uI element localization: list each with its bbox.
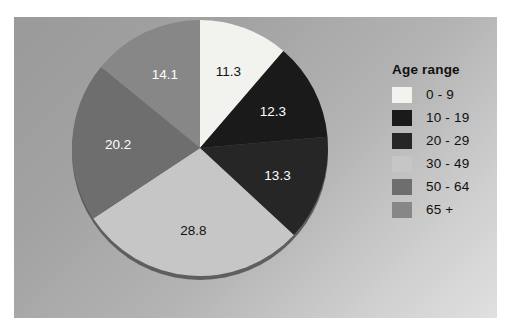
chart-panel: 11.312.313.328.820.214.1 Age range 0 - 9… — [14, 17, 497, 318]
pie-slice-value-label: 28.8 — [180, 223, 206, 238]
legend-swatch — [392, 87, 412, 103]
legend-swatch — [392, 202, 412, 218]
legend-item-label: 30 - 49 — [426, 156, 469, 171]
pie-slice-value-label: 20.2 — [105, 137, 131, 152]
legend-item[interactable]: 0 - 9 — [380, 84, 492, 105]
legend-items: 0 - 910 - 1920 - 2930 - 4950 - 6465 + — [380, 84, 492, 220]
pie-slice-value-label: 13.3 — [264, 168, 290, 183]
legend-swatch — [392, 179, 412, 195]
legend: Age range 0 - 910 - 1920 - 2930 - 4950 -… — [380, 62, 492, 222]
legend-item[interactable]: 20 - 29 — [380, 130, 492, 151]
legend-item[interactable]: 50 - 64 — [380, 176, 492, 197]
legend-swatch — [392, 133, 412, 149]
legend-swatch — [392, 110, 412, 126]
legend-item[interactable]: 65 + — [380, 199, 492, 220]
legend-title: Age range — [392, 62, 492, 77]
legend-item-label: 10 - 19 — [426, 110, 469, 125]
legend-item-label: 20 - 29 — [426, 133, 469, 148]
legend-swatch — [392, 156, 412, 172]
pie-slice-value-label: 11.3 — [216, 64, 241, 79]
legend-item[interactable]: 10 - 19 — [380, 107, 492, 128]
pie-chart-figure: 11.312.313.328.820.214.1 Age range 0 - 9… — [0, 0, 511, 331]
legend-item-label: 0 - 9 — [426, 87, 454, 102]
pie-slice-value-label: 12.3 — [260, 104, 286, 119]
legend-item-label: 65 + — [426, 202, 453, 217]
pie-slice-value-label: 14.1 — [152, 67, 178, 82]
legend-item-label: 50 - 64 — [426, 179, 469, 194]
legend-item[interactable]: 30 - 49 — [380, 153, 492, 174]
